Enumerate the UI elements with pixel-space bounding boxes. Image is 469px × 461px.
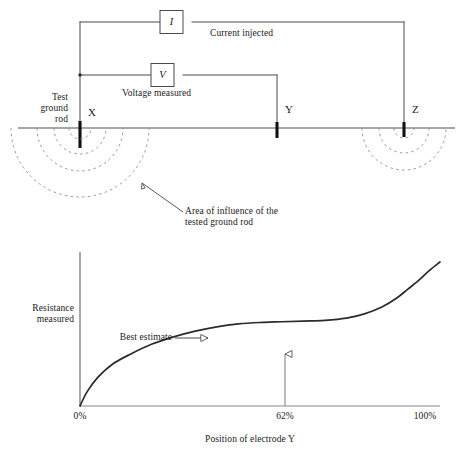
chart-x-axis-label: Position of electrode Y	[130, 434, 370, 445]
electrode-label-y: Y	[285, 103, 293, 115]
figure-canvas	[0, 0, 469, 461]
voltage-meter-symbol: V	[151, 69, 174, 80]
xtick-label-0: 0%	[62, 411, 98, 422]
wire-junction-dot	[78, 73, 81, 76]
current-meter-symbol: I	[160, 16, 183, 27]
test-ground-rod-label: Test ground rod	[6, 92, 68, 126]
voltage-measured-caption: Voltage measured	[122, 88, 191, 99]
electrode-label-x: X	[88, 106, 96, 118]
chart-y-axis-label: Resistance measured	[8, 303, 74, 325]
area-of-influence-label: Area of influence of the tested ground r…	[185, 206, 278, 228]
influence-leader-line	[142, 183, 183, 212]
electrode-rods	[80, 121, 404, 148]
current-injected-caption: Current injected	[210, 28, 273, 39]
figure-root: I V Current injected Voltage measured Te…	[0, 0, 469, 461]
xtick-label-62: 62%	[267, 411, 303, 422]
xtick-label-100: 100%	[404, 411, 446, 422]
electrode-label-z: Z	[412, 103, 419, 115]
best-estimate-label: Best estimate	[90, 332, 172, 343]
